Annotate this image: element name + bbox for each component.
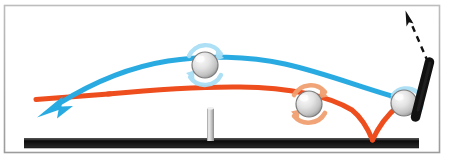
ball-top (192, 52, 218, 78)
table-surface (24, 138, 419, 148)
trajectory-diagram (0, 0, 453, 167)
figure-frame (5, 6, 440, 153)
ball-middle (296, 91, 322, 117)
net-post (207, 107, 214, 141)
figure-root: Table tennis ball spin trajectory diagra… (0, 0, 453, 167)
